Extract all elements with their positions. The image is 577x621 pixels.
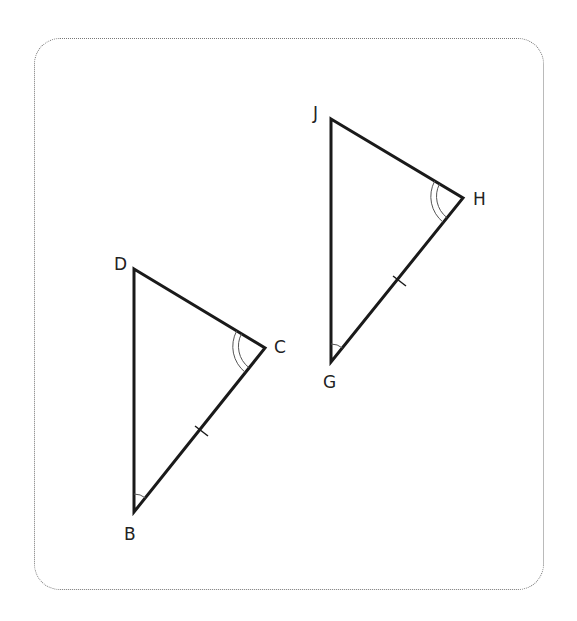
triangle-ghj xyxy=(331,119,463,362)
vertex-label-b: B xyxy=(124,524,136,544)
vertex-label-j: J xyxy=(313,103,318,123)
triangle-bcd xyxy=(134,269,265,512)
triangles-canvas xyxy=(0,0,577,621)
vertex-label-c: C xyxy=(274,337,286,357)
vertex-label-h: H xyxy=(473,189,486,209)
vertex-label-d: D xyxy=(114,254,127,274)
vertex-label-g: G xyxy=(323,372,336,392)
